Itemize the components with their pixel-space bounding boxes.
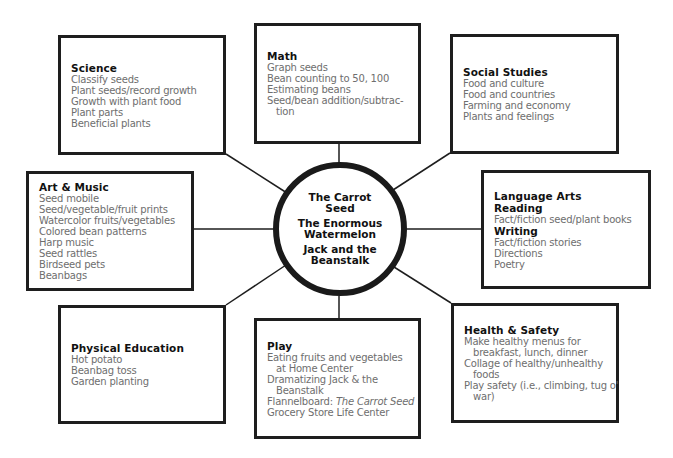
connector-health-safety: [394, 267, 451, 303]
box-title: Math: [267, 50, 408, 62]
list-item: Harp music: [39, 237, 181, 248]
list-item-title: The Carrot Seed: [336, 396, 414, 407]
list-item: Food and countries: [463, 89, 606, 100]
list-item: Grocery Store Life Center: [267, 407, 408, 418]
list-item: war): [464, 391, 606, 402]
list-item: Classify seeds: [71, 74, 213, 85]
list-item: Birdseed pets: [39, 259, 181, 270]
list-item: Poetry: [494, 259, 638, 270]
list-item: Estimating beans: [267, 84, 408, 95]
box-title: Health & Safety: [464, 324, 606, 336]
list-item: Graph seeds: [267, 62, 408, 73]
list-item: at Home Center: [267, 363, 408, 374]
connector-social-studies: [393, 153, 450, 190]
list-item: tion: [267, 106, 408, 117]
box-physical-education: Physical Education Hot potato Beanbag to…: [58, 305, 226, 424]
list-item: Fact/fiction seed/plant books: [494, 214, 638, 225]
list-item: Play safety (i.e., climbing, tug o': [464, 380, 606, 391]
box-title: Language Arts: [494, 190, 638, 202]
connector-science: [226, 154, 287, 193]
box-title: Science: [71, 62, 213, 74]
hub-story: Jack and the Beanstalk: [303, 244, 376, 266]
list-item: Bean counting to 50, 100: [267, 73, 408, 84]
list-item: Growth with plant food: [71, 96, 213, 107]
box-title: Social Studies: [463, 66, 606, 78]
list-item: Colored bean patterns: [39, 226, 181, 237]
list-item: Plant seeds/record growth: [71, 85, 213, 96]
list-item: Garden planting: [71, 376, 213, 387]
list-item: Flannelboard: The Carrot Seed: [267, 396, 408, 407]
list-item: Collage of healthy/unhealthy: [464, 358, 606, 369]
box-title: Physical Education: [71, 342, 213, 354]
list-item: Eating fruits and vegetables: [267, 352, 408, 363]
list-item: Seed/vegetable/fruit prints: [39, 204, 181, 215]
hub-story: The Enormous Watermelon: [298, 218, 382, 240]
list-item: Beneficial plants: [71, 118, 213, 129]
list-item: Seed mobile: [39, 193, 181, 204]
list-item: Directions: [494, 248, 638, 259]
subheading-reading: Reading: [494, 202, 638, 214]
list-item-label: Flannelboard:: [267, 396, 333, 407]
hub-story-line: Watermelon: [298, 229, 382, 240]
hub-story: The Carrot Seed: [309, 192, 372, 214]
list-item: Plants and feelings: [463, 111, 606, 122]
list-item: Hot potato: [71, 354, 213, 365]
list-item: Seed/bean addition/subtrac-: [267, 95, 408, 106]
list-item: breakfast, lunch, dinner: [464, 347, 606, 358]
box-title: Play: [267, 340, 408, 352]
box-language-arts: Language Arts Reading Fact/fiction seed/…: [481, 170, 651, 289]
box-social-studies: Social Studies Food and culture Food and…: [450, 34, 619, 154]
box-title: Art & Music: [39, 181, 181, 193]
box-art-music: Art & Music Seed mobile Seed/vegetable/f…: [26, 171, 194, 291]
hub-story-line: Seed: [309, 203, 372, 214]
list-item: Seed rattles: [39, 248, 181, 259]
list-item: Make healthy menus for: [464, 336, 606, 347]
box-health-safety: Health & Safety Make healthy menus for b…: [451, 303, 619, 423]
hub-story-line: Beanstalk: [303, 255, 376, 266]
list-item: foods: [464, 369, 606, 380]
box-science: Science Classify seeds Plant seeds/recor…: [58, 35, 226, 155]
list-item: Food and culture: [463, 78, 606, 89]
list-item: Plant parts: [71, 107, 213, 118]
list-item: Beanstalk: [267, 385, 408, 396]
connector-physical-education: [226, 265, 286, 305]
box-math: Math Graph seeds Bean counting to 50, 10…: [254, 23, 421, 144]
list-item: Fact/fiction stories: [494, 237, 638, 248]
hub-circle: The Carrot Seed The Enormous Watermelon …: [273, 162, 407, 296]
list-item: Beanbag toss: [71, 365, 213, 376]
list-item: Dramatizing Jack & the: [267, 374, 408, 385]
list-item: Beanbags: [39, 270, 181, 281]
list-item: Watercolor fruits/vegetables: [39, 215, 181, 226]
list-item: Farming and economy: [463, 100, 606, 111]
box-play: Play Eating fruits and vegetables at Hom…: [254, 318, 421, 439]
subheading-writing: Writing: [494, 225, 638, 237]
